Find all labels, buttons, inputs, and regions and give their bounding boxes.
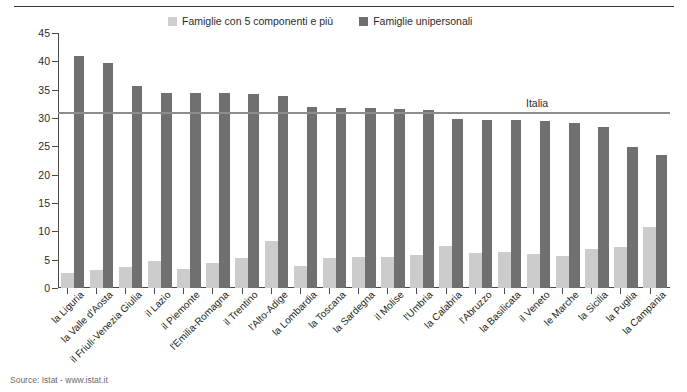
y-axis-tick-label: 25: [24, 140, 50, 152]
reference-line-label: Italia: [526, 97, 548, 109]
y-axis-tick-label: 40: [24, 55, 50, 67]
legend-swatch-light-icon: [168, 17, 177, 26]
reference-line-italia: [58, 112, 670, 114]
y-axis-tick-label: 10: [24, 225, 50, 237]
header-divider: [14, 6, 674, 7]
header-cropped-text: [70, 0, 370, 6]
x-axis-labels: la Liguriala Valle d'Aostail Friuli-Vene…: [58, 289, 670, 367]
chart-figure: Famiglie con 5 componenti e più Famiglie…: [0, 0, 687, 392]
chart-legend: Famiglie con 5 componenti e più Famiglie…: [168, 15, 472, 27]
legend-label-0: Famiglie con 5 componenti e più: [182, 15, 333, 27]
source-note: Source: Istat - www.istat.it: [10, 375, 108, 385]
legend-item-0: Famiglie con 5 componenti e più: [168, 15, 333, 27]
legend-label-1: Famiglie unipersonali: [373, 15, 472, 27]
bar-light-0: [61, 273, 75, 288]
bar-dark-13: [452, 119, 463, 288]
y-axis-tick: [52, 118, 58, 119]
y-axis-tick: [52, 231, 58, 232]
bar-dark-0: [74, 56, 85, 288]
bar-dark-4: [190, 93, 201, 289]
y-axis-tick: [52, 175, 58, 176]
y-axis-tick-label: 35: [24, 84, 50, 96]
y-axis-tick: [52, 203, 58, 204]
y-axis-tick-label: 20: [24, 169, 50, 181]
x-axis-label-text: la Valle d'Aosta: [59, 289, 115, 345]
bar-dark-12: [423, 110, 434, 288]
y-axis-tick-label: 5: [24, 254, 50, 266]
y-axis-tick: [52, 146, 58, 147]
y-axis-tick-label: 30: [24, 112, 50, 124]
y-axis-tick: [52, 61, 58, 62]
y-axis-tick: [52, 260, 58, 261]
legend-item-1: Famiglie unipersonali: [359, 15, 472, 27]
y-axis-tick: [52, 90, 58, 91]
y-axis-tick-label: 0: [24, 282, 50, 294]
y-axis-line: [58, 33, 59, 288]
bar-dark-1: [103, 63, 114, 288]
y-axis-tick-label: 15: [24, 197, 50, 209]
legend-swatch-dark-icon: [359, 17, 368, 26]
y-axis-tick: [52, 33, 58, 34]
y-axis-tick-label: 45: [24, 27, 50, 39]
